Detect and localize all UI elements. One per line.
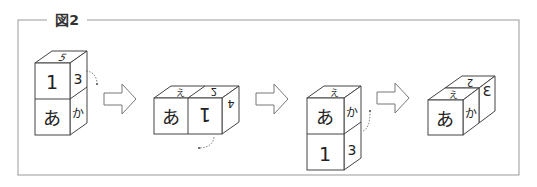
figure-title: 図2 — [47, 11, 87, 29]
cube1-lower-front-label: あ — [43, 108, 61, 129]
cube1-upper-side-label: 3 — [74, 71, 83, 87]
cube3-lower-side-label: 3 — [348, 142, 357, 158]
cube2-left-front-label: あ — [162, 107, 180, 128]
cube2-right-front-label: 1 — [199, 104, 211, 126]
right-arrow-icon — [377, 83, 409, 113]
cube3-upper-side-label: か — [346, 106, 358, 120]
cube-step4: 2 え あ か 3 — [428, 76, 495, 135]
cube1-lower-side-label: か — [72, 107, 84, 121]
cube4-back-top-label: 2 — [467, 77, 473, 88]
cube3-top-label: え — [330, 88, 339, 98]
cube-step2: え 2 あ 1 4 — [154, 86, 239, 149]
rotation-hint-icon — [86, 71, 97, 83]
rotation-hint-icon — [363, 112, 370, 131]
cube4-front-label: あ — [436, 109, 454, 130]
cube-step3: え あ か 1 3 — [307, 86, 371, 170]
cube-step1: 5 1 3 あ か — [35, 51, 98, 135]
cube2-left-top-label: え — [176, 88, 185, 98]
rotation-hint-icon — [200, 137, 214, 148]
cube4-back-side-label: 3 — [483, 83, 492, 99]
cube3-upper-front-label: あ — [316, 107, 334, 128]
right-arrow-icon — [256, 84, 288, 114]
cube1-upper-front-label: 1 — [46, 71, 58, 93]
cube4-front-side-label: か — [465, 107, 477, 121]
cube4-front-top-label: え — [449, 90, 458, 100]
cube3-lower-front-label: 1 — [319, 143, 331, 165]
cube2-right-top-label: 2 — [211, 86, 217, 97]
cube2-right-side-label: 4 — [228, 97, 235, 110]
right-arrow-icon — [104, 84, 136, 114]
